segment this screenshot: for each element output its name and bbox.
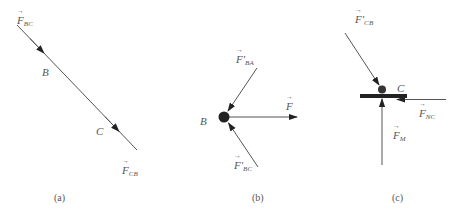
label-f-nc: FNC [419, 108, 435, 121]
label-f-bc: FBC [17, 15, 33, 28]
label-f-cb-prime: F'CB [355, 14, 373, 27]
label-f-ba-prime: F'BA [236, 54, 254, 67]
label-joint-b: B [200, 116, 207, 127]
support-beam [360, 94, 407, 98]
label-f-cb: FCB [122, 165, 138, 178]
label-f-bc-prime: F'BC [234, 160, 252, 173]
slider-c-dot [378, 86, 386, 94]
caption-c: (c) [392, 193, 403, 203]
force-fba-line [228, 68, 257, 111]
label-f: F [286, 101, 293, 112]
force-fcb-prime-line [345, 33, 379, 85]
panel-b [219, 68, 298, 167]
label-slider-c: C [397, 83, 404, 94]
label-point-b: B [42, 67, 49, 78]
label-point-c: C [96, 126, 103, 137]
panel-a [17, 25, 137, 150]
panel-c [345, 33, 446, 165]
caption-b: (b) [252, 193, 264, 203]
caption-a: (a) [54, 193, 65, 203]
arrow-fbc-icon [30, 39, 44, 54]
label-f-m: FM [393, 130, 406, 143]
arrow-fcb-icon [105, 117, 119, 132]
joint-b-dot [219, 112, 230, 123]
force-diagram-canvas [0, 0, 456, 216]
